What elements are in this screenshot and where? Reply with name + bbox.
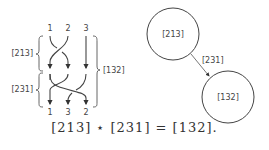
top-label-2: 2 xyxy=(65,24,70,33)
strand-lower-right-b xyxy=(68,93,72,104)
bottom-label-2: 3 xyxy=(65,108,70,117)
brace-label-132: [132] xyxy=(103,66,125,75)
strand-upper-2to1 xyxy=(50,36,68,68)
top-label-3: 3 xyxy=(83,24,88,33)
node-132-label: [132] xyxy=(217,93,239,102)
brace-label-231: [231] xyxy=(11,85,33,94)
bottom-label-3: 2 xyxy=(83,108,88,117)
brace-right xyxy=(93,36,100,107)
brace-lower xyxy=(36,73,43,107)
strand-lower-to-3 xyxy=(57,86,86,104)
equation: [213] ⋆ [231] = [132]. xyxy=(0,120,269,135)
braid-strands xyxy=(50,36,86,104)
strand-upper-1to2-a xyxy=(50,36,57,48)
strand-lower-left-a xyxy=(50,74,57,86)
brace-label-213: [213] xyxy=(11,49,33,58)
left-braces xyxy=(36,36,100,107)
top-label-1: 1 xyxy=(47,24,52,33)
bottom-label-1: 1 xyxy=(47,108,52,117)
brace-upper xyxy=(36,36,43,71)
edge-label-231: [231] xyxy=(202,56,224,65)
strand-upper-1to2-b xyxy=(62,52,68,68)
braid-composition-figure: 1 2 3 1 3 2 [213] [231] [132] [213] [132 xyxy=(0,0,269,150)
strand-lower-right-a xyxy=(76,74,86,90)
node-213-label: [213] xyxy=(162,30,184,39)
